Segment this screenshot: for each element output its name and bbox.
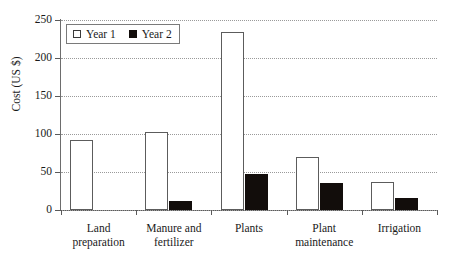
bar-year-1-plants xyxy=(221,32,244,210)
chart-legend: Year 1Year 2 xyxy=(66,24,180,44)
bar-year-1-irrigation xyxy=(371,182,394,210)
gridline xyxy=(61,20,437,21)
x-axis-tick xyxy=(211,210,212,215)
bar-year-1-manure-and-fertilizer xyxy=(145,132,168,210)
y-axis-tick-label: 100 xyxy=(18,128,52,140)
x-axis-tick xyxy=(362,210,363,215)
bar-year-2-manure-and-fertilizer xyxy=(169,201,192,210)
y-axis-tick-label: 0 xyxy=(18,204,52,216)
bar-year-2-plant-maintenance xyxy=(320,183,343,210)
gridline xyxy=(61,210,437,211)
x-axis-category-label: Manure andfertilizer xyxy=(136,221,211,249)
x-axis-category-label: Plantmaintenance xyxy=(287,221,362,249)
x-axis-category-label: Irrigation xyxy=(362,221,437,235)
legend-item-label: Year 2 xyxy=(142,28,172,40)
x-axis-category-label: Landpreparation xyxy=(61,221,136,249)
legend-item-label: Year 1 xyxy=(86,28,116,40)
legend-item: Year 1 xyxy=(73,28,116,40)
y-axis-tick-label: 200 xyxy=(18,52,52,64)
bar-chart-figure: Cost (US $) 050100150200250 Landpreparat… xyxy=(0,0,460,253)
y-axis-title: Cost (US $) xyxy=(10,24,22,144)
legend-item: Year 2 xyxy=(129,28,172,40)
y-axis-tick-label: 250 xyxy=(18,14,52,26)
category-label-line: Plants xyxy=(211,221,286,235)
category-label-line: maintenance xyxy=(287,235,362,249)
open-square-icon xyxy=(73,30,81,38)
plot-area xyxy=(61,20,437,210)
y-axis-tick-label: 150 xyxy=(18,90,52,102)
category-label-line: Plant xyxy=(287,221,362,235)
bar-year-1-plant-maintenance xyxy=(296,157,319,210)
x-axis-tick xyxy=(61,210,62,215)
x-axis-category-label: Plants xyxy=(211,221,286,235)
x-axis-tick xyxy=(287,210,288,215)
x-axis-tick xyxy=(136,210,137,215)
gridline xyxy=(61,96,437,97)
bar-year-1-land-preparation xyxy=(70,140,93,210)
gridline xyxy=(61,58,437,59)
filled-square-icon xyxy=(129,30,137,38)
category-label-line: fertilizer xyxy=(136,235,211,249)
category-label-line: Irrigation xyxy=(362,221,437,235)
category-label-line: Manure and xyxy=(136,221,211,235)
gridline xyxy=(61,134,437,135)
category-label-line: Land xyxy=(61,221,136,235)
y-axis-tick-label: 50 xyxy=(18,166,52,178)
category-label-line: preparation xyxy=(61,235,136,249)
bar-year-2-plants xyxy=(245,174,268,210)
x-axis-tick xyxy=(437,210,438,215)
bar-year-2-irrigation xyxy=(395,198,418,210)
